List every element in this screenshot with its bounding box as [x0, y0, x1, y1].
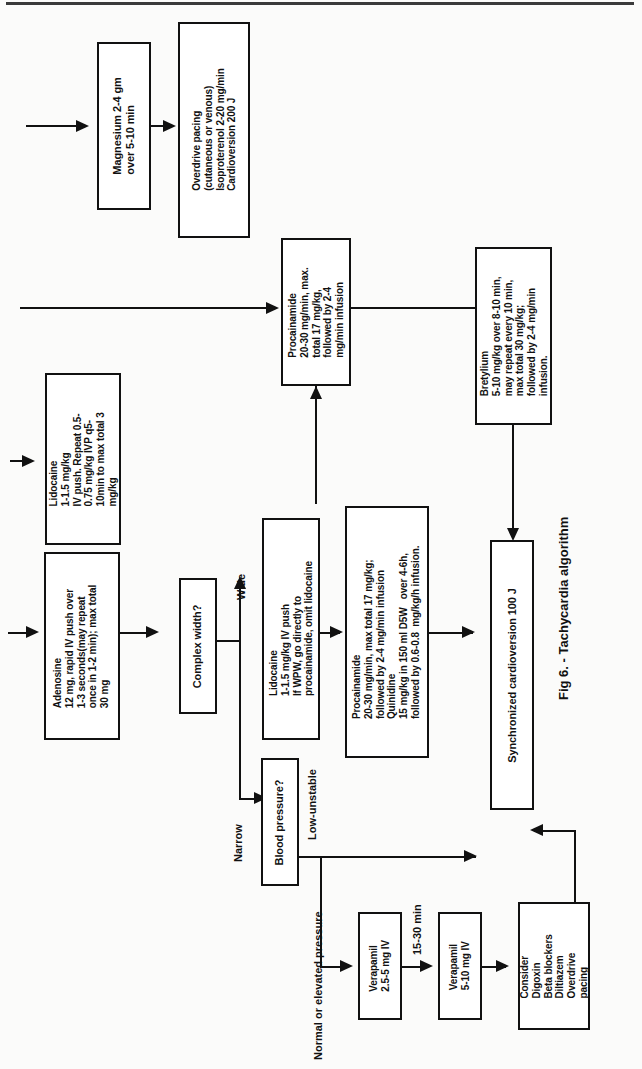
arrowhead-into-procainamide-top	[266, 302, 279, 314]
arrowhead-into-magnesium	[76, 120, 89, 132]
edge-label-narrow: Narrow	[232, 824, 245, 862]
node-sync-cardioversion[interactable]: Synchronized cardioversion 100 J	[490, 540, 534, 810]
edge-into-lidocaine-upper	[10, 460, 26, 462]
node-lidocaine-wide-label: Lidocaine 1-1.5 mg/kg IV push If WPW, go…	[267, 561, 314, 696]
node-magnesium[interactable]: Magnesium 2-4 gm over 5-10 min	[97, 42, 151, 210]
node-blood-pressure[interactable]: Blood pressure?	[261, 758, 299, 886]
node-complex-width-label: Complex width?	[192, 604, 205, 688]
node-bretylium[interactable]: Bretylium 5-10 mg/kg over 8-10 min, may …	[475, 247, 552, 425]
edge-bretylium-to-sync	[512, 425, 514, 535]
edge-lidocaine-upper-riser	[315, 386, 317, 504]
edge-complexwidth-wide	[217, 640, 241, 642]
node-procainamide-quinidine[interactable]: Procainamide 20-30 mg/min, max total 17 …	[345, 506, 429, 758]
arrowhead-into-overdrive	[163, 120, 176, 132]
arrowhead-consider-to-sync	[530, 824, 543, 836]
arrowhead-normal-or-elevated	[340, 960, 353, 972]
arrowhead-low-unstable	[464, 850, 477, 862]
node-bretylium-label: Bretylium 5-10 mg/kg over 8-10 min, may …	[478, 276, 549, 396]
edge-into-procainamide-top	[20, 307, 277, 309]
arrowhead-into-adenosine	[26, 626, 39, 638]
arrowhead-into-sync-from-quinidine	[462, 626, 475, 638]
node-lidocaine-upper-label: Lidocaine 1-1.5 mg/kg IV push. Repeat 0.…	[48, 412, 119, 506]
node-magnesium-label: Magnesium 2-4 gm over 5-10 min	[111, 77, 137, 174]
node-adenosine-label: Adenosine 12 mg, rapid IV push over 1-3 …	[53, 584, 112, 707]
node-verapamil-2-label: Verapamil 5-10 mg IV	[448, 941, 472, 990]
arrowhead-into-consider	[496, 960, 509, 972]
node-verapamil-2[interactable]: Verapamil 5-10 mg IV	[438, 912, 482, 1020]
node-lidocaine-wide[interactable]: Lidocaine 1-1.5 mg/kg IV push If WPW, go…	[262, 518, 320, 740]
page-top-rule	[6, 2, 634, 5]
node-complex-width[interactable]: Complex width?	[179, 578, 217, 714]
arrowhead-into-verapamil-2	[420, 960, 433, 972]
node-adenosine[interactable]: Adenosine 12 mg, rapid IV push over 1-3 …	[44, 552, 120, 740]
node-sync-cardioversion-label: Synchronized cardioversion 100 J	[506, 588, 519, 763]
node-lidocaine-upper[interactable]: Lidocaine 1-1.5 mg/kg IV push. Repeat 0.…	[45, 373, 121, 545]
edge-bp-low-unstable	[299, 856, 476, 858]
node-verapamil-1[interactable]: Verapamil 2.5-5 mg IV	[358, 912, 402, 1020]
scanned-page: Magnesium 2-4 gm over 5-10 min Overdrive…	[0, 0, 642, 1069]
node-procainamide-quinidine-label: Procainamide 20-30 mg/min, max total 17 …	[352, 545, 423, 718]
edge-label-wide: Wide	[235, 574, 248, 600]
node-blood-pressure-label: Blood pressure?	[274, 779, 287, 865]
node-consider[interactable]: Consider Digoxin Beta blockers Diltiazem…	[518, 902, 590, 1030]
edge-procainamide-to-bretylium	[351, 307, 475, 309]
node-procainamide-top-label: Procainamide 20-30 mg/min, max. total 17…	[287, 267, 346, 357]
node-overdrive-pacing[interactable]: Overdrive pacing (cutaneous or venous) I…	[178, 22, 250, 238]
edge-consider-to-sync	[574, 830, 576, 902]
arrowhead-into-complexwidth	[146, 626, 159, 638]
edge-label-low-unstable: Low-unstable	[306, 769, 319, 840]
arrowhead-lidocaine-upper-riser	[310, 386, 322, 399]
node-verapamil-1-label: Verapamil 2.5-5 mg IV	[368, 940, 392, 992]
edge-label-normal-or-elevated: Normal or elevated pressure	[312, 911, 325, 1060]
edge-label-interval-15-30: 15-30 min	[411, 904, 424, 955]
node-overdrive-pacing-label: Overdrive pacing (cutaneous or venous) I…	[190, 69, 237, 192]
figure-caption: Fig 6. - Tachycardia algorithm	[556, 517, 571, 700]
node-procainamide-top[interactable]: Procainamide 20-30 mg/min, max. total 17…	[281, 238, 351, 386]
node-consider-label: Consider Digoxin Beta blockers Diltiazem…	[519, 934, 590, 998]
arrowhead-into-procainamide-quinidine	[330, 626, 343, 638]
edge-complexwidth-narrow-drop	[239, 642, 241, 800]
